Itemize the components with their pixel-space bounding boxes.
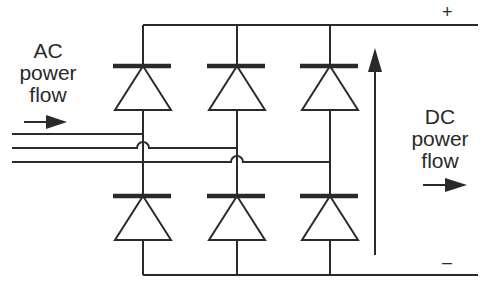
upper-diode-1 bbox=[115, 66, 171, 110]
upper-diode-2 bbox=[209, 66, 265, 110]
dc-flow-arrow-icon bbox=[445, 178, 467, 192]
dc-power-flow-label: DC power flow bbox=[400, 106, 480, 172]
ac-flow-arrow-icon bbox=[46, 115, 67, 129]
lower-diode-2 bbox=[209, 196, 265, 240]
ac-phase-c bbox=[12, 156, 330, 162]
ac-power-flow-label: AC power flow bbox=[8, 40, 88, 106]
upper-diode-3 bbox=[302, 66, 358, 110]
ac-phase-b bbox=[12, 142, 237, 148]
lower-diode-1 bbox=[115, 196, 171, 240]
dc-arrow-head-icon bbox=[368, 48, 382, 72]
positive-terminal-label: + bbox=[442, 2, 453, 23]
lower-diode-3 bbox=[302, 196, 358, 240]
negative-terminal-label: – bbox=[442, 252, 452, 273]
